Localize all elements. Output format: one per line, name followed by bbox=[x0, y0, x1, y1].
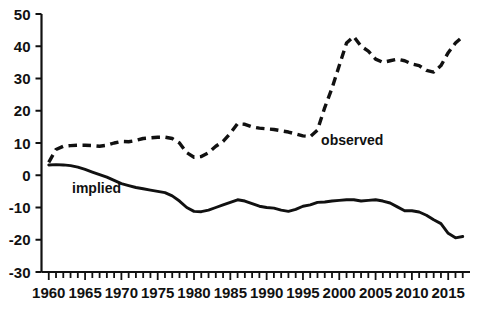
x-axis-tick-label: 1970 bbox=[105, 284, 138, 301]
x-axis-tick-label: 2015 bbox=[432, 284, 465, 301]
chart-series bbox=[49, 37, 463, 238]
chart-container: -30-20-100102030405019601965197019751980… bbox=[0, 0, 487, 319]
series-label-implied: implied bbox=[72, 180, 121, 196]
series-line-observed bbox=[49, 37, 463, 163]
x-axis-tick-label: 1990 bbox=[250, 284, 283, 301]
x-axis-tick-label: 1960 bbox=[32, 284, 65, 301]
y-axis-tick-label: 50 bbox=[14, 6, 31, 23]
y-axis-tick-label: -30 bbox=[9, 264, 31, 281]
y-axis-tick-label: -10 bbox=[9, 199, 31, 216]
series-label-observed: observed bbox=[321, 132, 383, 148]
y-axis-tick-label: 20 bbox=[14, 102, 31, 119]
y-axis-tick-label: 10 bbox=[14, 135, 31, 152]
x-axis-tick-label: 1980 bbox=[177, 284, 210, 301]
x-axis-tick-label: 1965 bbox=[68, 284, 101, 301]
y-axis-tick-label: 30 bbox=[14, 70, 31, 87]
x-axis-tick-label: 1975 bbox=[141, 284, 174, 301]
x-axis-tick-label: 2010 bbox=[395, 284, 428, 301]
line-chart: -30-20-100102030405019601965197019751980… bbox=[0, 0, 487, 319]
x-axis-tick-label: 1985 bbox=[214, 284, 247, 301]
chart-axes bbox=[42, 14, 471, 272]
x-axis-tick-label: 2005 bbox=[359, 284, 392, 301]
y-axis-tick-label: -20 bbox=[9, 231, 31, 248]
chart-series-labels: observedimplied bbox=[72, 132, 383, 197]
x-axis-tick-label: 2000 bbox=[323, 284, 356, 301]
y-axis-tick-label: 40 bbox=[14, 38, 31, 55]
x-axis-tick-label: 1995 bbox=[286, 284, 319, 301]
chart-tick-labels: -30-20-100102030405019601965197019751980… bbox=[9, 6, 465, 302]
series-line-implied bbox=[49, 165, 463, 238]
y-axis-tick-label: 0 bbox=[22, 167, 30, 184]
